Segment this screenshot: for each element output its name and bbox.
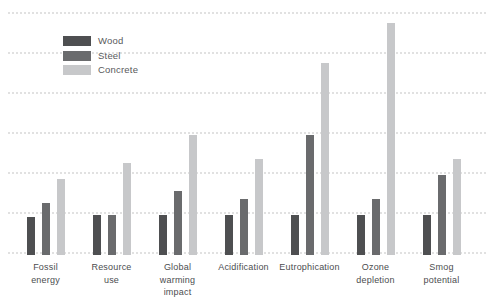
bar-concrete: [453, 159, 461, 255]
gridline: [8, 132, 486, 134]
legend-label: Steel: [98, 51, 121, 61]
bar-steel: [306, 135, 314, 255]
legend-item-concrete: Concrete: [63, 65, 138, 75]
bar-concrete: [255, 159, 263, 255]
gridline: [8, 92, 486, 94]
legend-label: Concrete: [98, 65, 138, 75]
bar-wood: [159, 215, 167, 255]
bar-wood: [27, 217, 35, 255]
bar-concrete: [321, 63, 329, 255]
legend-item-steel: Steel: [63, 51, 138, 61]
legend-swatch-steel: [63, 51, 91, 61]
legend: WoodSteelConcrete: [63, 36, 138, 80]
bar-wood: [357, 215, 365, 255]
legend-swatch-wood: [63, 36, 91, 46]
bar-steel: [240, 199, 248, 255]
bar-wood: [291, 215, 299, 255]
gridline: [8, 172, 486, 174]
bar-steel: [372, 199, 380, 255]
legend-item-wood: Wood: [63, 36, 138, 46]
bar-steel: [108, 215, 116, 255]
category-label: Smog potential: [394, 261, 490, 286]
bar-steel: [438, 175, 446, 255]
bar-concrete: [189, 135, 197, 255]
legend-swatch-concrete: [63, 65, 91, 75]
bar-chart: Fossil energyResource useGlobal warming …: [0, 0, 493, 305]
gridline: [8, 12, 486, 14]
bar-wood: [225, 215, 233, 255]
bar-wood: [423, 215, 431, 255]
bar-concrete: [387, 23, 395, 255]
bar-steel: [42, 203, 50, 255]
bar-concrete: [57, 179, 65, 255]
bar-concrete: [123, 163, 131, 255]
bar-wood: [93, 215, 101, 255]
bar-steel: [174, 191, 182, 255]
legend-label: Wood: [98, 36, 123, 46]
